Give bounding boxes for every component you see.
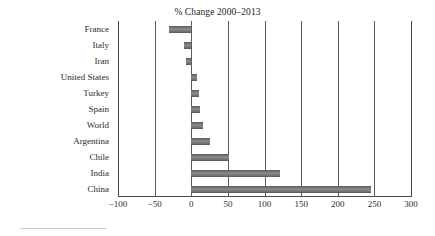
y-tick-label-india: India xyxy=(91,168,110,178)
x-tick-label--100: −100 xyxy=(109,199,128,209)
y-tick-label-china: China xyxy=(88,184,110,194)
bar-series xyxy=(118,21,412,197)
bar xyxy=(191,186,370,193)
bar xyxy=(186,58,191,65)
chart-title: % Change 2000–2013 xyxy=(0,7,435,17)
x-tick-label-50: 50 xyxy=(223,199,232,209)
footer-divider xyxy=(20,228,106,229)
x-tick-label-300: 300 xyxy=(404,199,418,209)
bar xyxy=(191,74,197,81)
y-tick-label-argentina: Argentina xyxy=(73,136,109,146)
y-tick-label-spain: Spain xyxy=(88,104,109,114)
x-tick-label-250: 250 xyxy=(368,199,382,209)
bar xyxy=(191,90,198,97)
y-tick-label-turkey: Turkey xyxy=(83,88,109,98)
bar xyxy=(191,122,203,129)
x-tick-label-200: 200 xyxy=(331,199,345,209)
y-tick-label-chile: Chile xyxy=(90,152,110,162)
x-tick-label-0: 0 xyxy=(189,199,194,209)
y-tick-label-world: World xyxy=(87,120,109,130)
y-tick-label-italy: Italy xyxy=(93,40,110,50)
bar xyxy=(169,26,191,33)
y-tick-label-france: France xyxy=(85,24,110,34)
x-tick-label-150: 150 xyxy=(294,199,308,209)
bar xyxy=(191,170,280,177)
bar xyxy=(191,106,200,113)
x-axis-tick-labels: −100−50050100150200250300 xyxy=(118,199,412,213)
bar xyxy=(191,138,209,145)
x-tick-label-100: 100 xyxy=(258,199,272,209)
bar xyxy=(184,42,191,49)
plot-area xyxy=(118,21,412,197)
bar xyxy=(191,154,229,161)
y-tick-label-iran: Iran xyxy=(95,56,110,66)
chart-figure: % Change 2000–2013 FranceItalyIranUnited… xyxy=(0,0,435,236)
x-tick-label--50: −50 xyxy=(148,199,162,209)
y-tick-label-united-states: United States xyxy=(61,72,109,82)
y-axis-tick-labels: FranceItalyIranUnited StatesTurkeySpainW… xyxy=(0,21,114,197)
